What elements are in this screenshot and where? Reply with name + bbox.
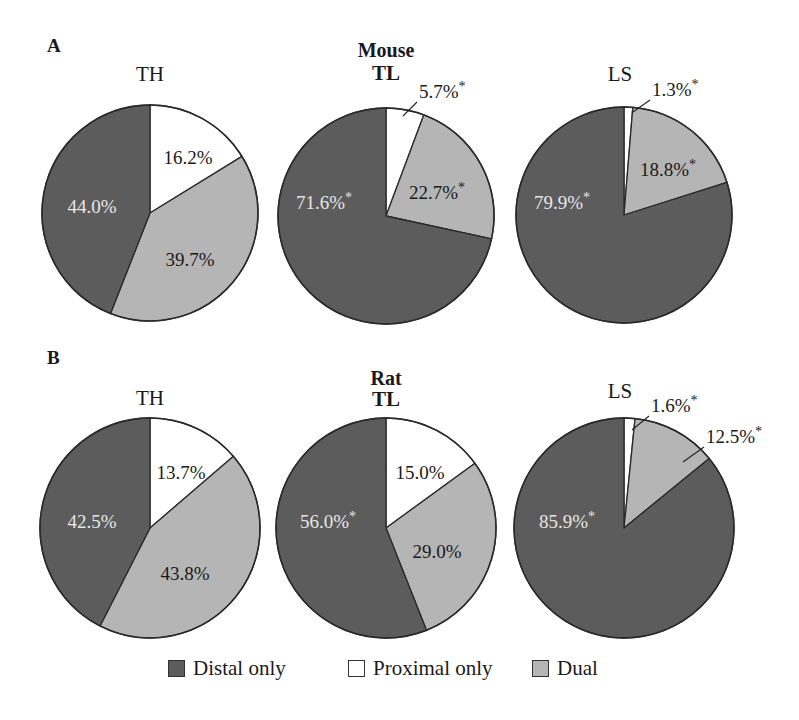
slice-value-label: 22.7%* bbox=[409, 180, 465, 203]
slice-value-label: 43.8% bbox=[160, 563, 209, 584]
slice-value-label: 5.7%* bbox=[419, 79, 466, 102]
pie-mouse-tl: TL5.7%*22.7%*71.6%* bbox=[278, 61, 494, 324]
slice-value-label: 13.7% bbox=[156, 462, 205, 483]
slice-value-label: 85.9%* bbox=[539, 509, 595, 532]
pie-mouse-ls: LS1.3%*18.8%*79.9%* bbox=[516, 62, 732, 323]
pie-rat-ls: LS1.6%*12.5%*85.9%* bbox=[514, 379, 762, 638]
pie-title: TL bbox=[372, 387, 400, 411]
pie-title: TH bbox=[136, 62, 164, 86]
distal-swatch-icon bbox=[168, 660, 185, 677]
slice-value-label: 56.0%* bbox=[300, 509, 356, 532]
slice-value-label: 29.0% bbox=[412, 541, 461, 562]
slice-value-label: 44.0% bbox=[67, 196, 116, 217]
legend: Distal only Proximal only Dual bbox=[0, 656, 799, 686]
pie-title: TH bbox=[136, 386, 164, 410]
legend-label: Dual bbox=[557, 656, 598, 681]
legend-item-proximal: Proximal only bbox=[348, 656, 493, 681]
slice-value-label: 1.3%* bbox=[652, 77, 699, 100]
slice-value-label: 12.5%* bbox=[706, 424, 762, 447]
species-title: Rat bbox=[370, 367, 401, 389]
slice-value-label: 18.8%* bbox=[640, 157, 696, 180]
legend-item-dual: Dual bbox=[532, 656, 598, 681]
slice-value-label: 16.2% bbox=[163, 147, 212, 168]
legend-label: Distal only bbox=[193, 656, 286, 681]
pie-mouse-th: TH16.2%39.7%44.0% bbox=[42, 62, 258, 321]
pie-charts: TH16.2%39.7%44.0%TL5.7%*22.7%*71.6%*LS1.… bbox=[40, 61, 762, 638]
slice-value-label: 79.9%* bbox=[534, 190, 590, 213]
panel-letter: A bbox=[47, 35, 61, 56]
pie-chart-figure: AMouseBRat TH16.2%39.7%44.0%TL5.7%*22.7%… bbox=[0, 0, 799, 720]
pie-rat-th: TH13.7%43.8%42.5% bbox=[40, 386, 260, 638]
dual-swatch-icon bbox=[532, 660, 549, 677]
panel-letter: B bbox=[47, 347, 60, 368]
pie-title: LS bbox=[608, 379, 633, 403]
legend-item-distal: Distal only bbox=[168, 656, 286, 681]
slice-value-label: 39.7% bbox=[165, 249, 214, 270]
legend-label: Proximal only bbox=[373, 656, 493, 681]
slice-value-label: 42.5% bbox=[67, 511, 116, 532]
species-title: Mouse bbox=[358, 39, 415, 61]
slice-value-label: 1.6%* bbox=[651, 393, 698, 416]
slice-value-label: 15.0% bbox=[395, 462, 444, 483]
proximal-swatch-icon bbox=[348, 660, 365, 677]
slice-value-label: 71.6%* bbox=[296, 190, 352, 213]
pie-title: TL bbox=[372, 61, 400, 85]
pie-title: LS bbox=[608, 62, 633, 86]
pie-rat-tl: TL15.0%29.0%56.0%* bbox=[276, 387, 496, 638]
